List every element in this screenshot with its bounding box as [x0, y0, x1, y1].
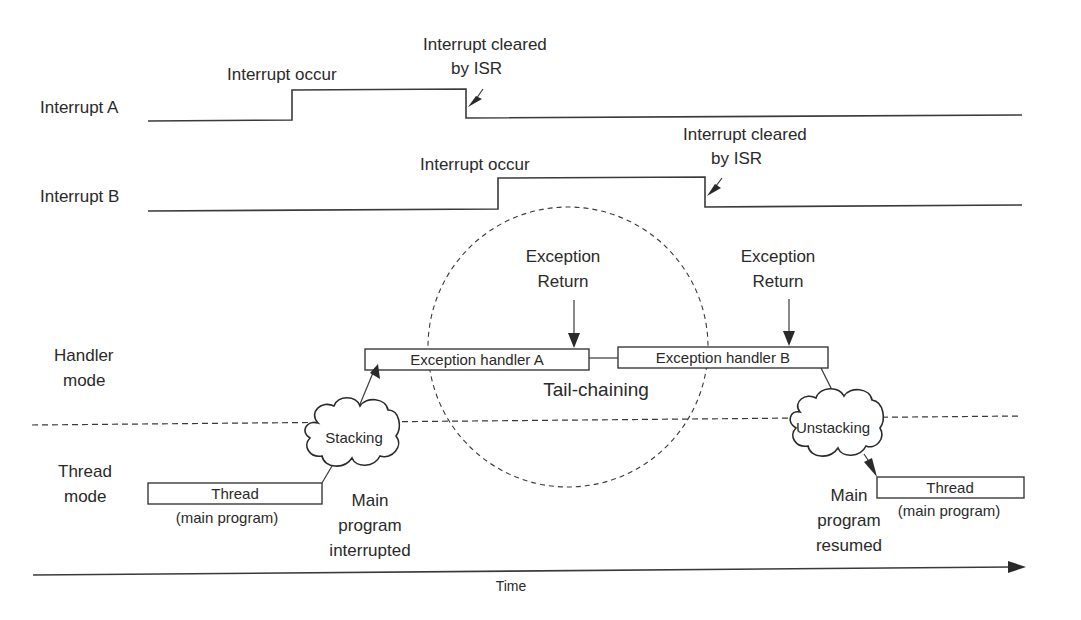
interrupt-b-cleared-label-2: by ISR	[711, 149, 762, 168]
stacking-label: Stacking	[325, 429, 383, 446]
interrupt-a-waveform	[148, 89, 1022, 121]
resumed-label-1: Main	[831, 486, 868, 505]
handler-mode-label-2: mode	[63, 371, 106, 390]
interrupt-a-label: Interrupt A	[40, 98, 119, 117]
tail-chaining-timing-diagram: Interrupt A Interrupt occur Interrupt cl…	[0, 0, 1081, 620]
exception-handler-a-label: Exception handler A	[410, 351, 543, 368]
resumed-label-3: resumed	[816, 536, 882, 555]
main-program-resumed-annotation: Main program resumed	[816, 486, 882, 555]
interrupt-b-cleared-label-1: Interrupt cleared	[683, 125, 807, 144]
time-axis-arrow-icon	[1008, 561, 1026, 573]
interrupt-a-occur-label: Interrupt occur	[227, 65, 337, 84]
interrupt-b-cleared-arrow-icon	[707, 178, 722, 196]
time-axis: Time	[33, 561, 1026, 594]
thread-mode-label-1: Thread	[58, 462, 112, 481]
exception-return-b-label-2: Return	[752, 272, 803, 291]
exception-return-a: Exception Return	[526, 247, 601, 348]
interrupt-b-label: Interrupt B	[40, 187, 119, 206]
thread-left: Thread (main program)	[148, 483, 322, 526]
thread-left-label: Thread	[211, 485, 259, 502]
interrupt-a-cleared-label-2: by ISR	[451, 59, 502, 78]
exception-handler-b-label: Exception handler B	[656, 349, 790, 366]
interrupt-b-signal: Interrupt B Interrupt occur Interrupt cl…	[40, 125, 1022, 211]
resumed-label-2: program	[817, 511, 880, 530]
interrupted-label-2: program	[338, 516, 401, 535]
unstacking-cloud: Unstacking	[790, 368, 883, 477]
stacking-connector	[322, 466, 332, 483]
handler-mode-label-1: Handler	[54, 346, 114, 365]
exception-handler-a: Exception handler A	[365, 349, 589, 370]
time-axis-line	[33, 567, 1012, 575]
interrupt-a-signal: Interrupt A Interrupt occur Interrupt cl…	[40, 35, 1022, 121]
thread-right: Thread (main program)	[877, 477, 1024, 519]
stacking-cloud: Stacking	[305, 364, 399, 483]
interrupt-b-occur-label: Interrupt occur	[420, 155, 530, 174]
exception-return-b-arrow-icon	[783, 331, 795, 346]
exception-handler-b: Exception handler B	[618, 347, 828, 368]
interrupt-a-cleared-arrow-icon	[468, 89, 483, 107]
unstacking-arrow-icon	[864, 458, 877, 477]
thread-right-sub: (main program)	[898, 502, 1001, 519]
exception-return-a-label-2: Return	[537, 272, 588, 291]
exception-return-b-label-1: Exception	[741, 247, 816, 266]
exception-return-a-arrow-icon	[568, 333, 580, 348]
main-program-interrupted-annotation: Main program interrupted	[329, 491, 410, 560]
interrupt-a-cleared-label-1: Interrupt cleared	[423, 35, 547, 54]
thread-mode-label-2: mode	[64, 487, 107, 506]
interrupt-b-waveform	[148, 177, 1022, 211]
exception-return-a-label-1: Exception	[526, 247, 601, 266]
thread-left-sub: (main program)	[176, 509, 279, 526]
interrupted-label-3: interrupted	[329, 541, 410, 560]
time-label: Time	[496, 578, 527, 594]
unstacking-label: Unstacking	[796, 419, 870, 436]
thread-right-label: Thread	[926, 479, 974, 496]
tail-chaining-label: Tail-chaining	[543, 379, 649, 400]
exception-return-b: Exception Return	[741, 247, 816, 346]
interrupted-label-1: Main	[352, 491, 389, 510]
